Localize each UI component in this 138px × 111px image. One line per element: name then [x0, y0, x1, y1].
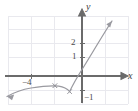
x-axis-arrowhead	[121, 73, 128, 80]
y-axis-label: y	[86, 2, 90, 12]
function-graph-figure: x y 2 1 −1 −4	[0, 0, 138, 111]
left-branch-curve	[7, 86, 70, 97]
tick-label-y-2: 2	[71, 38, 76, 47]
graph-canvas	[0, 0, 138, 111]
y-axis-arrowhead	[79, 9, 86, 16]
x-axis-label: x	[128, 71, 132, 81]
tick-label-x-neg4: −4	[22, 78, 32, 87]
tick-label-y-neg1: −1	[84, 93, 94, 102]
right-branch-arrowhead	[106, 21, 112, 28]
curve-arrowheads	[7, 21, 112, 100]
tick-label-y-1: 1	[72, 52, 77, 61]
